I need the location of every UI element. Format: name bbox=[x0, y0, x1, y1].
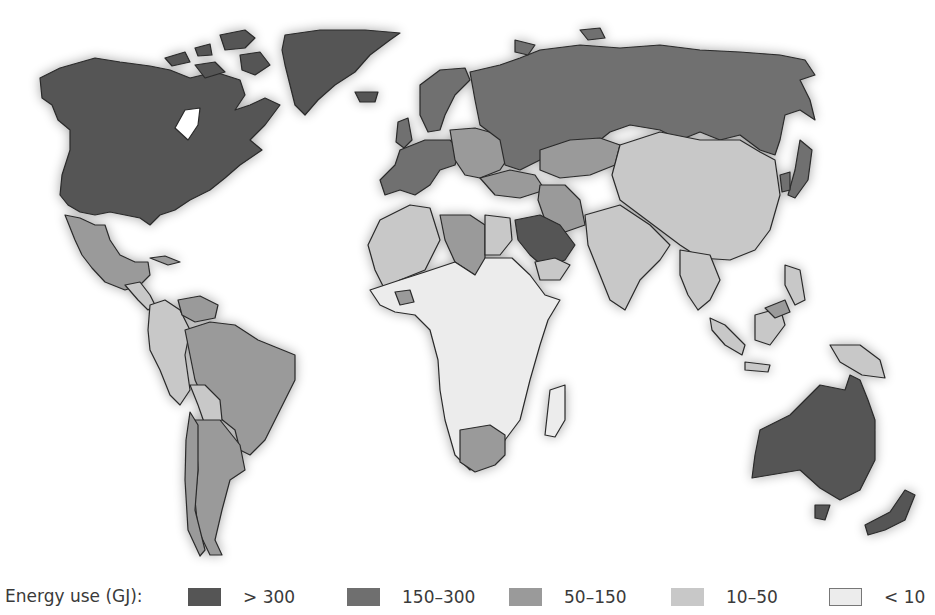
legend-item-150-300: 150–300 bbox=[347, 586, 475, 608]
south-africa bbox=[460, 425, 505, 472]
philippines bbox=[785, 265, 805, 305]
japan bbox=[788, 140, 812, 198]
greenland bbox=[282, 30, 400, 115]
new-guinea bbox=[830, 345, 885, 378]
legend-label: > 300 bbox=[243, 587, 295, 607]
korea bbox=[780, 172, 790, 192]
new-zealand bbox=[865, 490, 915, 535]
legend-label: 150–300 bbox=[402, 587, 475, 607]
world-energy-map bbox=[0, 0, 935, 575]
west-europe bbox=[380, 140, 460, 195]
legend-swatch bbox=[347, 588, 380, 606]
legend-swatch bbox=[509, 588, 542, 606]
egypt bbox=[485, 215, 512, 255]
tasmania bbox=[815, 505, 830, 520]
legend-label: < 10 bbox=[884, 587, 925, 607]
map-legend: Energy use (GJ): > 300 150–300 50–150 10… bbox=[0, 582, 935, 612]
legend-item-10-50: 10–50 bbox=[671, 586, 778, 608]
north-america bbox=[40, 58, 280, 225]
legend-item-over-300: > 300 bbox=[188, 586, 295, 608]
australia bbox=[752, 375, 875, 500]
madagascar bbox=[545, 385, 565, 437]
legend-swatch bbox=[671, 588, 704, 606]
legend-item-50-150: 50–150 bbox=[509, 586, 627, 608]
uk bbox=[396, 118, 412, 148]
scandinavia bbox=[420, 68, 470, 132]
mexico bbox=[65, 215, 150, 290]
legend-label: 50–150 bbox=[564, 587, 627, 607]
sumatra bbox=[710, 318, 745, 355]
legend-title: Energy use (GJ): bbox=[5, 586, 143, 606]
legend-item-under-10: < 10 bbox=[829, 586, 925, 608]
legend-swatch bbox=[188, 588, 221, 606]
legend-label: 10–50 bbox=[726, 587, 778, 607]
yemen bbox=[535, 258, 570, 280]
legend-swatch bbox=[829, 588, 862, 606]
